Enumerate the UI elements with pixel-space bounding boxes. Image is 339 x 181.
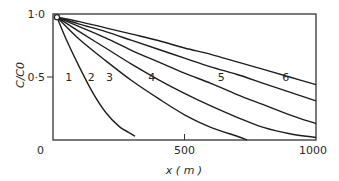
x-axis-label: x ( m ) (165, 164, 202, 177)
curve-5 (57, 17, 316, 101)
curve-3 (57, 17, 316, 137)
curve-label-5: 5 (218, 71, 225, 84)
curve-label-4: 4 (148, 71, 155, 84)
curve-label-6: 6 (282, 71, 289, 84)
x-tick-label: 500 (174, 144, 195, 157)
line-chart: 123456 050010000·51·0 x ( m )C/C0 (0, 0, 339, 181)
curve-label-3: 3 (106, 71, 113, 84)
y-tick-label: 1·0 (28, 8, 46, 21)
start-point-marker (54, 15, 59, 20)
x-tick-label: 0 (37, 144, 44, 157)
y-axis-label: C/C0 (14, 62, 27, 88)
curve-4 (57, 17, 316, 123)
x-tick-label: 1000 (299, 144, 327, 157)
curve-label-1: 1 (65, 71, 72, 84)
curve-label-2: 2 (88, 71, 95, 84)
curve-labels: 123456 (65, 71, 289, 84)
y-tick-label: 0·5 (28, 71, 46, 84)
